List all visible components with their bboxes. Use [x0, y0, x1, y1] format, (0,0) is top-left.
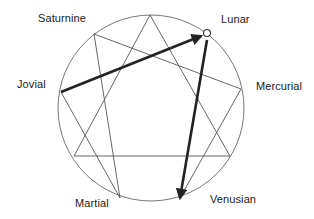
enneagram-diagram [0, 0, 314, 219]
label-mercurial: Mercurial [256, 80, 302, 92]
hexad-mercurial-to-saturnine [94, 34, 241, 89]
hexad-saturnine-to-martial [94, 34, 120, 198]
lunar-point-marker [204, 30, 211, 37]
label-saturnine: Saturnine [38, 12, 86, 24]
label-jovial: Jovial [17, 78, 46, 90]
outer-circle [58, 15, 244, 201]
label-martial: Martial [75, 197, 109, 209]
inner-figure-lines [61, 15, 241, 198]
label-venusian: Venusian [210, 193, 256, 205]
flow-arrows [61, 36, 207, 198]
arrow-jovial-to-lunar [61, 36, 201, 92]
label-lunar: Lunar [221, 13, 250, 25]
triangle-lower-left-to-top [74, 15, 150, 156]
